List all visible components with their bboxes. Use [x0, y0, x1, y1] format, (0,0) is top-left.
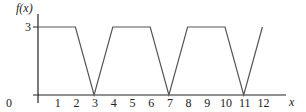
x-tick-label-7: 7 — [167, 96, 173, 110]
x-tick-label-9: 9 — [204, 96, 210, 110]
x-tick-label-5: 5 — [130, 96, 136, 110]
function-line — [38, 27, 262, 95]
y-tick-label: 3 — [25, 20, 31, 34]
x-tick-label-10: 10 — [220, 96, 232, 110]
x-tick-labels: 0123456789101112 — [6, 96, 269, 110]
chart: f(x) x 3 0123456789101112 — [0, 0, 306, 112]
x-tick-label-2: 2 — [73, 96, 79, 110]
y-axis-label: f(x) — [16, 1, 33, 15]
x-tick-label-3: 3 — [92, 96, 98, 110]
x-tick-label-0: 0 — [6, 96, 12, 110]
x-tick-label-1: 1 — [55, 96, 61, 110]
x-tick-label-4: 4 — [111, 96, 117, 110]
x-tick-label-8: 8 — [186, 96, 192, 110]
x-axis-label: x — [288, 95, 295, 109]
x-tick-label-12: 12 — [257, 96, 269, 110]
x-tick-label-11: 11 — [239, 96, 251, 110]
x-tick-label-6: 6 — [148, 96, 154, 110]
